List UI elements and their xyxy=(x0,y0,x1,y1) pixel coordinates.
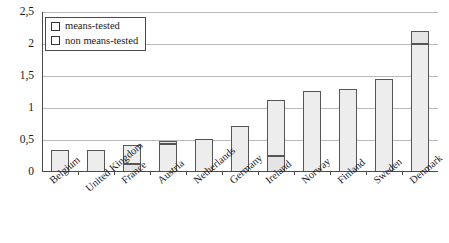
y-tick-label: 0,5 xyxy=(20,134,34,146)
bar-segment-non-means-tested xyxy=(411,44,429,172)
bar-segment-means-tested xyxy=(411,31,429,44)
y-axis-labels: 00,511,522,5 xyxy=(0,12,38,172)
bar-segment-non-means-tested xyxy=(267,100,285,156)
legend-label: means-tested xyxy=(65,21,120,32)
y-tick-label: 1 xyxy=(28,102,34,114)
legend-label: non means-tested xyxy=(65,36,138,47)
bar-segment-non-means-tested xyxy=(375,79,393,172)
legend-swatch-icon xyxy=(51,22,60,31)
chart-container: 00,511,522,5 BelgiumUnited KingdomFrance… xyxy=(0,0,449,243)
y-tick-label: 2 xyxy=(28,38,34,50)
y-tick-label: 1,5 xyxy=(20,70,34,82)
y-tick-label: 2,5 xyxy=(20,6,34,18)
legend-item-means-tested: means-tested xyxy=(51,21,138,32)
legend-item-non-means-tested: non means-tested xyxy=(51,36,138,47)
x-axis-labels: BelgiumUnited KingdomFranceAustriaNether… xyxy=(42,174,438,242)
legend-swatch-icon xyxy=(51,36,60,45)
bar-sweden xyxy=(375,79,393,172)
y-tick-label: 0 xyxy=(28,166,34,178)
bar-denmark xyxy=(411,31,429,172)
chart-legend: means-tested non means-tested xyxy=(45,17,146,51)
y-axis-line xyxy=(42,12,43,172)
